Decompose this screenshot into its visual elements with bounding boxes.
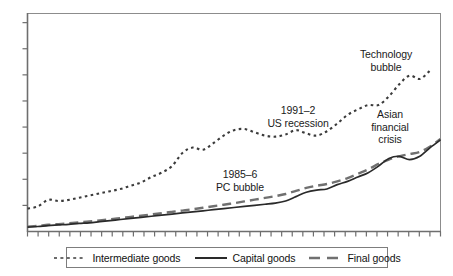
legend-label-intermediate-goods: Intermediate goods [92,252,180,264]
legend-label-capital-goods: Capital goods [233,252,296,264]
annotation-pc-bubble: 1985–6 PC bubble [185,168,295,193]
annotation-technology-bubble: Technology bubble [348,48,424,73]
legend-item-intermediate-goods: Intermediate goods [53,252,180,264]
annotation-pc-bubble-line1: 1985–6 [185,168,295,181]
legend-label-final-goods: Final goods [347,252,400,264]
annotation-us-recession-line2: US recession [243,117,353,130]
annotation-pc-bubble-line2: PC bubble [185,181,295,194]
legend-swatch-dashed-icon [308,253,342,263]
annotation-us-recession: 1991–2 US recession [243,104,353,129]
annotation-technology-bubble-line1: Technology [348,48,424,61]
annotation-technology-bubble-line2: bubble [348,61,424,74]
annotation-asian-crisis-line3: crisis [352,133,428,146]
chart-legend: Intermediate goods Capital goods Final g… [66,247,388,268]
legend-item-capital-goods: Capital goods [194,252,296,264]
chart-figure: 1985–6 PC bubble 1991–2 US recession Asi… [0,0,453,276]
legend-swatch-dotted-icon [53,253,87,263]
chart-series-group [28,70,441,227]
annotation-asian-financial-crisis: Asian financial crisis [352,108,428,146]
legend-item-final-goods: Final goods [308,252,400,264]
annotation-asian-crisis-line1: Asian [352,108,428,121]
legend-swatch-solid-icon [194,253,228,263]
annotation-asian-crisis-line2: financial [352,121,428,134]
annotation-us-recession-line1: 1991–2 [243,104,353,117]
